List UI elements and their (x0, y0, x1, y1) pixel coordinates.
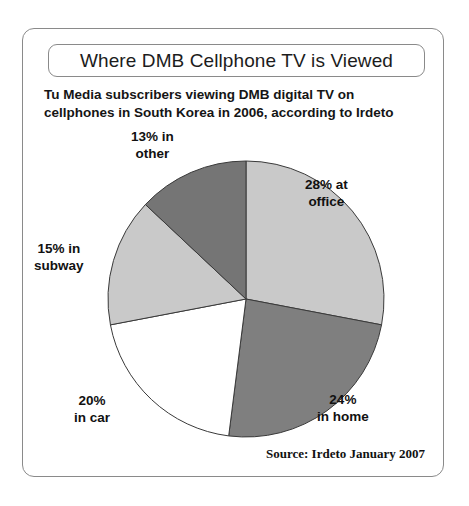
slice-label-home: 24% in home (317, 392, 369, 425)
slice-label-subway-line1: 15% in (34, 241, 84, 258)
slice-label-office-line2: office (305, 194, 348, 211)
pie-chart: 13% in other 28% at office 15% in subway… (23, 29, 443, 476)
slice-label-car-line2: in car (74, 410, 110, 427)
slice-label-car: 20% in car (74, 393, 110, 426)
slice-label-subway-line2: subway (34, 258, 84, 275)
slice-label-other: 13% in other (131, 129, 174, 162)
chart-frame: Where DMB Cellphone TV is Viewed Tu Medi… (22, 28, 444, 477)
slice-label-car-line1: 20% (74, 393, 110, 410)
slice-label-home-line1: 24% (317, 392, 369, 409)
slice-label-subway: 15% in subway (34, 241, 84, 274)
slice-label-other-line2: other (131, 146, 174, 163)
slice-label-other-line1: 13% in (131, 129, 174, 146)
source-attribution: Source: Irdeto January 2007 (266, 446, 425, 462)
slice-label-home-line2: in home (317, 409, 369, 426)
slice-label-office: 28% at office (305, 177, 348, 210)
slice-label-office-line1: 28% at (305, 177, 348, 194)
